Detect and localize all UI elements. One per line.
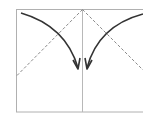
left-fold-arrow: [21, 13, 78, 68]
right-fold-line: [83, 10, 144, 73]
origami-diagram: [0, 0, 143, 119]
left-fold-line: [17, 10, 83, 77]
right-fold-arrow: [87, 14, 143, 68]
